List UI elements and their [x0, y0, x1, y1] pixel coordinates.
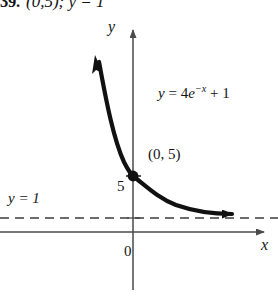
y-tick-label-5: 5	[117, 178, 125, 195]
point-label: (0, 5)	[148, 146, 181, 163]
y-axis-label: y	[108, 18, 115, 36]
equation-label: y = 4e−x + 1	[158, 83, 230, 102]
equation-lhs: y	[158, 85, 165, 101]
equation-constant: 1	[222, 85, 230, 101]
equation-exponent: −x	[195, 83, 206, 94]
asymptote-label: y = 1	[8, 190, 40, 207]
equation-equals: =	[168, 85, 176, 101]
exponential-graph-figure: 39.(0,5); y = 1 y x	[0, 0, 278, 303]
x-axis-label: x	[261, 236, 268, 254]
graph-canvas	[0, 0, 278, 303]
equation-base: e	[188, 85, 195, 101]
equation-plus: +	[210, 85, 218, 101]
origin-label: 0	[124, 243, 132, 260]
point-marker-0-5	[128, 171, 139, 182]
